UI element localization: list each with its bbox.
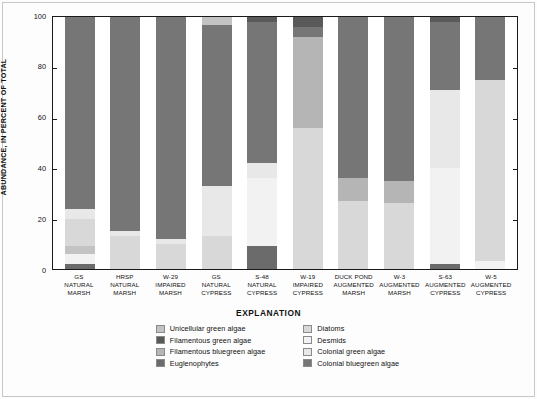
bar-1[interactable] — [65, 17, 95, 269]
bar-segment — [430, 264, 460, 269]
bar-segment — [247, 22, 277, 163]
legend-swatch-icon — [303, 348, 312, 356]
legend-label: Unicellular green algae — [170, 324, 246, 333]
y-tick-mark-left-20 — [53, 220, 57, 221]
y-tick-mark-right-80 — [513, 68, 517, 69]
bar-10[interactable] — [475, 17, 505, 269]
legend-swatch-icon — [303, 336, 312, 344]
plot-area — [52, 16, 518, 270]
bar-9[interactable] — [430, 17, 460, 269]
legend-label: Filamentous bluegreen algae — [170, 347, 265, 356]
legend-swatch-icon — [156, 359, 165, 367]
x-axis-label-10: W-5AUGMENTEDCYPRESS — [469, 273, 513, 303]
bar-segment — [475, 80, 505, 261]
x-axis-label-5: S-48NATURALCYPRESS — [240, 273, 284, 303]
y-tick-mark-left-40 — [53, 169, 57, 170]
legend-column-right: DiatomsDesmidsColonial green algaeColoni… — [303, 324, 399, 368]
bar-segment — [247, 178, 277, 246]
bar-8[interactable] — [384, 17, 414, 269]
bar-segment — [293, 37, 323, 128]
bar-segment — [247, 163, 277, 178]
bar-segment — [384, 17, 414, 181]
bar-segment — [65, 17, 95, 209]
bar-segment — [156, 244, 186, 269]
legend-column-left: Unicellular green algaeFilamentous green… — [156, 324, 265, 368]
bar-segment — [202, 25, 232, 186]
legend-label: Colonial bluegreen algae — [317, 359, 399, 368]
bar-segment — [65, 209, 95, 219]
y-tick-label-0: 0 — [0, 266, 52, 275]
bar-segment — [475, 17, 505, 80]
x-axis-labels: GSNATURALMARSHHRSPNATURALMARSHW-29IMPAIR… — [52, 273, 518, 303]
y-tick-label-60: 60 — [0, 113, 52, 122]
legend-item-right-2[interactable]: Desmids — [303, 336, 399, 345]
legend-item-right-4[interactable]: Colonial bluegreen algae — [303, 359, 399, 368]
bar-4[interactable] — [202, 17, 232, 269]
bar-segment — [430, 22, 460, 90]
bar-segment — [202, 17, 232, 25]
legend-swatch-icon — [156, 325, 165, 333]
x-axis-label-4: GSNATURALCYPRESS — [194, 273, 238, 303]
legend-swatch-icon — [303, 359, 312, 367]
bar-segment — [430, 168, 460, 264]
bar-segment — [202, 236, 232, 269]
y-tick-label-80: 80 — [0, 62, 52, 71]
bar-segment — [65, 246, 95, 254]
bar-segment — [202, 186, 232, 236]
bar-segment — [338, 201, 368, 269]
legend-columns: Unicellular green algaeFilamentous green… — [0, 324, 537, 368]
legend-item-left-2[interactable]: Filamentous green algae — [156, 336, 265, 345]
bar-segment — [338, 178, 368, 201]
y-tick-label-20: 20 — [0, 215, 52, 224]
bar-segment — [293, 27, 323, 37]
x-axis-label-9: S-63AUGMENTEDCYPRESS — [423, 273, 467, 303]
bar-segment — [338, 17, 368, 178]
y-tick-label-100: 100 — [0, 12, 52, 21]
explanation-section: EXPLANATION Unicellular green algaeFilam… — [0, 308, 537, 368]
bar-segment — [293, 17, 323, 27]
legend-label: Filamentous green algae — [170, 336, 251, 345]
legend-item-left-4[interactable]: Euglenophytes — [156, 359, 265, 368]
bar-segment — [384, 203, 414, 269]
legend-swatch-icon — [156, 348, 165, 356]
bar-segment — [65, 254, 95, 264]
x-axis-label-1: GSNATURALMARSH — [57, 273, 101, 303]
legend-swatch-icon — [156, 336, 165, 344]
chart-page: ABUNDANCE, IN PERCENT OF TOTAL 100806040… — [0, 0, 537, 399]
legend-label: Euglenophytes — [170, 359, 219, 368]
bar-group — [53, 17, 517, 269]
x-axis-label-2: HRSPNATURALMARSH — [103, 273, 147, 303]
legend-item-left-3[interactable]: Filamentous bluegreen algae — [156, 347, 265, 356]
bar-segment — [247, 246, 277, 269]
bar-7[interactable] — [338, 17, 368, 269]
bar-segment — [475, 261, 505, 269]
x-axis-label-8: W-3AUGMENTEDMARSH — [377, 273, 421, 303]
x-axis-label-6: W-19IMPAIREDCYPRESS — [286, 273, 330, 303]
x-axis-label-7: DUCK PONDAUGMENTEDMARSH — [332, 273, 376, 303]
y-tick-mark-right-40 — [513, 169, 517, 170]
legend-item-right-1[interactable]: Diatoms — [303, 324, 399, 333]
bar-segment — [110, 17, 140, 231]
bar-5[interactable] — [247, 17, 277, 269]
y-tick-mark-left-80 — [53, 68, 57, 69]
bar-segment — [65, 219, 95, 247]
bar-segment — [156, 17, 186, 239]
y-tick-mark-left-60 — [53, 119, 57, 120]
bar-6[interactable] — [293, 17, 323, 269]
legend-item-right-3[interactable]: Colonial green algae — [303, 347, 399, 356]
legend-label: Diatoms — [317, 324, 344, 333]
bar-segment — [65, 264, 95, 269]
legend-item-left-1[interactable]: Unicellular green algae — [156, 324, 265, 333]
bar-segment — [430, 90, 460, 168]
bar-3[interactable] — [156, 17, 186, 269]
legend-swatch-icon — [303, 325, 312, 333]
y-tick-mark-right-60 — [513, 119, 517, 120]
legend-label: Colonial green algae — [317, 347, 385, 356]
bar-segment — [293, 128, 323, 269]
y-tick-label-40: 40 — [0, 164, 52, 173]
x-axis-label-3: W-29IMPAIREDMARSH — [148, 273, 192, 303]
explanation-title: EXPLANATION — [0, 308, 537, 318]
bar-2[interactable] — [110, 17, 140, 269]
bar-segment — [110, 236, 140, 269]
legend-label: Desmids — [317, 336, 346, 345]
